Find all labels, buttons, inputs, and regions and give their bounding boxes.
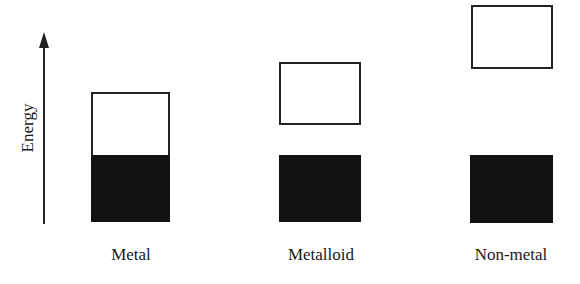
- nonmetal-conduction-band: [471, 5, 553, 69]
- metalloid-valence-band: [279, 155, 361, 222]
- metalloid-conduction-band: [279, 62, 361, 125]
- metalloid-label: Metalloid: [251, 245, 391, 265]
- nonmetal-label: Non-metal: [441, 245, 580, 265]
- metal-valence-band: [91, 155, 170, 222]
- metal-label: Metal: [61, 245, 201, 265]
- energy-axis-label: Energy: [18, 104, 38, 153]
- nonmetal-valence-band: [470, 155, 553, 223]
- metal-conduction-band: [91, 92, 170, 158]
